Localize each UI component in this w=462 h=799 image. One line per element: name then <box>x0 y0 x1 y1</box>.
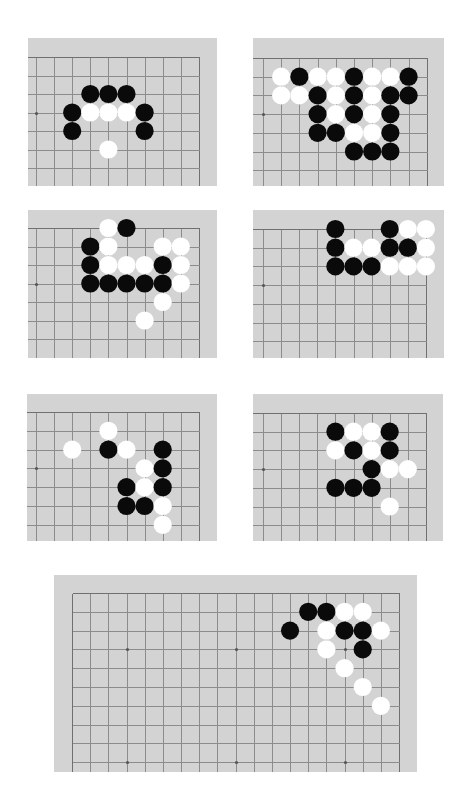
black-stone-icon <box>117 219 135 237</box>
board-grid <box>28 210 217 358</box>
board-grid <box>253 38 444 186</box>
white-stone-icon <box>354 603 372 621</box>
black-stone-icon <box>63 122 81 140</box>
board-grid <box>28 38 217 186</box>
black-stone-icon <box>309 86 327 104</box>
star-point-icon <box>126 648 129 651</box>
white-stone-icon <box>335 659 353 677</box>
white-stone-icon <box>417 239 435 257</box>
white-stone-icon <box>363 423 381 441</box>
black-stone-icon <box>81 85 99 103</box>
black-stone-icon <box>81 256 99 274</box>
black-stone-icon <box>81 274 99 292</box>
black-stone-icon <box>354 622 372 640</box>
black-stone-icon <box>344 257 362 275</box>
white-stone-icon <box>327 86 345 104</box>
black-stone-icon <box>326 479 344 497</box>
white-stone-icon <box>63 441 81 459</box>
go-board-diagram-6 <box>253 394 443 541</box>
black-stone-icon <box>381 423 399 441</box>
white-stone-icon <box>363 105 381 123</box>
star-point-icon <box>344 648 347 651</box>
white-stone-icon <box>154 293 172 311</box>
white-stone-icon <box>154 237 172 255</box>
white-stone-icon <box>99 140 117 158</box>
star-point-icon <box>35 283 38 286</box>
black-stone-icon <box>344 441 362 459</box>
white-stone-icon <box>272 86 290 104</box>
white-stone-icon <box>172 237 190 255</box>
black-stone-icon <box>154 441 172 459</box>
black-stone-icon <box>345 86 363 104</box>
star-point-icon <box>35 467 38 470</box>
go-board-diagram-7-large <box>54 575 417 772</box>
white-stone-icon <box>117 441 135 459</box>
white-stone-icon <box>81 103 99 121</box>
white-stone-icon <box>154 516 172 534</box>
black-stone-icon <box>381 142 399 160</box>
black-stone-icon <box>326 423 344 441</box>
black-stone-icon <box>381 239 399 257</box>
white-stone-icon <box>354 678 372 696</box>
black-stone-icon <box>327 124 345 142</box>
white-stone-icon <box>335 603 353 621</box>
star-point-icon <box>344 761 347 764</box>
white-stone-icon <box>363 86 381 104</box>
white-stone-icon <box>136 459 154 477</box>
white-stone-icon <box>99 422 117 440</box>
black-stone-icon <box>326 220 344 238</box>
white-stone-icon <box>417 220 435 238</box>
star-point-icon <box>235 761 238 764</box>
white-stone-icon <box>363 239 381 257</box>
white-stone-icon <box>290 86 308 104</box>
black-stone-icon <box>63 103 81 121</box>
white-stone-icon <box>345 124 363 142</box>
black-stone-icon <box>117 478 135 496</box>
board-grid <box>253 210 444 358</box>
star-point-icon <box>126 761 129 764</box>
board-grid <box>253 394 443 541</box>
black-stone-icon <box>381 105 399 123</box>
white-stone-icon <box>344 423 362 441</box>
black-stone-icon <box>81 237 99 255</box>
black-stone-icon <box>363 460 381 478</box>
white-stone-icon <box>99 103 117 121</box>
white-stone-icon <box>172 256 190 274</box>
board-grid <box>54 575 417 772</box>
white-stone-icon <box>117 256 135 274</box>
white-stone-icon <box>381 68 399 86</box>
black-stone-icon <box>381 441 399 459</box>
black-stone-icon <box>399 239 417 257</box>
black-stone-icon <box>317 603 335 621</box>
white-stone-icon <box>363 441 381 459</box>
black-stone-icon <box>281 622 299 640</box>
white-stone-icon <box>99 256 117 274</box>
white-stone-icon <box>372 697 390 715</box>
black-stone-icon <box>117 497 135 515</box>
go-board-diagram-5 <box>27 394 217 541</box>
white-stone-icon <box>381 497 399 515</box>
white-stone-icon <box>136 478 154 496</box>
black-stone-icon <box>400 68 418 86</box>
go-board-diagram-1 <box>28 38 217 186</box>
white-stone-icon <box>363 124 381 142</box>
white-stone-icon <box>399 460 417 478</box>
black-stone-icon <box>309 124 327 142</box>
white-stone-icon <box>272 68 290 86</box>
go-board-diagram-4 <box>253 210 444 358</box>
white-stone-icon <box>381 460 399 478</box>
white-stone-icon <box>99 219 117 237</box>
black-stone-icon <box>154 256 172 274</box>
black-stone-icon <box>99 85 117 103</box>
black-stone-icon <box>363 479 381 497</box>
white-stone-icon <box>344 239 362 257</box>
black-stone-icon <box>117 274 135 292</box>
white-stone-icon <box>372 622 390 640</box>
star-point-icon <box>262 468 265 471</box>
black-stone-icon <box>309 105 327 123</box>
black-stone-icon <box>400 86 418 104</box>
black-stone-icon <box>154 459 172 477</box>
black-stone-icon <box>354 640 372 658</box>
white-stone-icon <box>327 105 345 123</box>
black-stone-icon <box>326 239 344 257</box>
